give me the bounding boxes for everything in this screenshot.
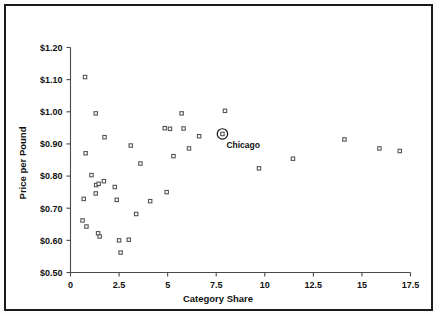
y-tick-label: $0.80: [40, 171, 63, 181]
y-tick-label: $1.10: [40, 75, 63, 85]
data-point-marker: [113, 185, 116, 188]
data-point-marker: [129, 144, 132, 147]
y-tick-label: $0.70: [40, 204, 63, 214]
chart-figure: $0.50$0.60$0.70$0.80$0.90$1.00$1.10$1.20…: [0, 0, 437, 315]
x-tick-label: 17.5: [402, 280, 420, 290]
x-tick-label: 10: [260, 280, 270, 290]
data-point-marker: [83, 75, 86, 78]
data-point-marker: [291, 157, 294, 160]
x-tick-label: 12.5: [305, 280, 323, 290]
data-point-marker: [115, 198, 118, 201]
data-point-marker: [197, 135, 200, 138]
data-point-marker: [103, 135, 106, 138]
data-point-marker: [168, 127, 171, 130]
data-point-marker: [180, 112, 183, 115]
y-axis-title: Price per Pound: [17, 126, 28, 199]
data-point-marker: [343, 138, 346, 141]
data-point-marker: [163, 126, 166, 129]
x-tick-label: 2.5: [113, 280, 126, 290]
data-point-marker: [223, 109, 226, 112]
chicago-annotation-label: Chicago: [226, 140, 260, 150]
x-axis: 02.557.51012.51517.5: [68, 273, 419, 290]
y-axis: $0.50$0.60$0.70$0.80$0.90$1.00$1.10$1.20: [40, 43, 71, 278]
x-axis-title: Category Share: [183, 293, 253, 304]
data-point-marker: [139, 162, 142, 165]
data-point-marker: [148, 199, 151, 202]
data-point-marker: [97, 182, 100, 185]
y-tick-label: $0.50: [40, 268, 63, 278]
data-point-marker: [257, 167, 260, 170]
data-point-marker: [172, 154, 175, 157]
scatter-plot: $0.50$0.60$0.70$0.80$0.90$1.00$1.10$1.20…: [0, 0, 437, 315]
x-tick-label: 5: [165, 280, 170, 290]
y-tick-label: $1.00: [40, 107, 63, 117]
data-point-marker: [102, 180, 105, 183]
data-point-marker: [127, 238, 130, 241]
data-point-marker: [81, 219, 84, 222]
data-points: [81, 75, 402, 254]
y-tick-label: $0.90: [40, 139, 63, 149]
y-tick-label: $0.60: [40, 236, 63, 246]
data-point-marker: [117, 239, 120, 242]
data-point-marker: [165, 190, 168, 193]
data-point-marker: [378, 147, 381, 150]
x-tick-label: 0: [68, 280, 73, 290]
data-point-marker: [134, 212, 137, 215]
data-point-marker: [90, 173, 93, 176]
data-point-marker: [187, 147, 190, 150]
data-point-marker: [94, 192, 97, 195]
data-point-marker: [84, 152, 87, 155]
y-tick-label: $1.20: [40, 43, 63, 53]
data-point-marker: [82, 197, 85, 200]
data-point-marker: [94, 112, 97, 115]
data-point-marker: [182, 127, 185, 130]
data-point-marker: [85, 225, 88, 228]
data-point-marker: [398, 149, 401, 152]
data-point-marker: [221, 132, 224, 135]
data-point-marker: [119, 251, 122, 254]
data-point-marker: [98, 235, 101, 238]
x-tick-label: 15: [357, 280, 367, 290]
x-tick-label: 7.5: [210, 280, 223, 290]
